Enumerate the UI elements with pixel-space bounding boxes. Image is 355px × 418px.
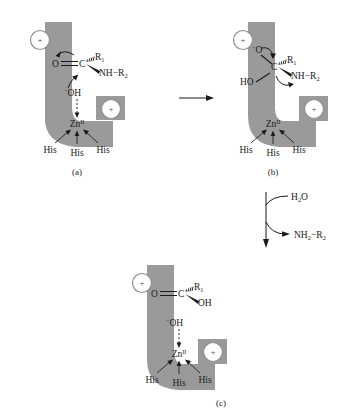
r1-group-b: R1 <box>287 55 297 66</box>
coordination-arrow-c <box>177 343 182 349</box>
hydroxyl-b: HO <box>240 77 254 87</box>
panel-label-c: (c) <box>216 398 226 408</box>
his-label-b3: His <box>292 145 306 155</box>
positive-charge-label-c2: + <box>211 348 216 357</box>
nh-r2-group-a: NH−R2 <box>99 68 128 79</box>
positive-charge-label-b1: + <box>241 36 246 45</box>
positive-charge-label-b2: + <box>312 105 317 114</box>
water-label: H2O <box>291 192 308 203</box>
coordination-arrow-a <box>75 113 80 119</box>
panel-label-a: (a) <box>72 167 82 177</box>
oh-group-c: OH <box>198 298 212 308</box>
positive-charge-label-c1: + <box>140 279 145 288</box>
his-label-a2: His <box>70 148 84 158</box>
his-label-a3: His <box>96 145 110 155</box>
central-carbon-b: C <box>271 62 277 72</box>
reaction-mechanism-figure: + + O C R1 NH−R2 −OH ZnII <box>0 0 355 418</box>
r1-group-a: R1 <box>95 52 105 63</box>
hydroxide-c: −OH <box>166 317 183 328</box>
carbonyl-carbon-c: C <box>178 289 184 299</box>
positive-charge-label-a2: + <box>109 105 114 114</box>
solid-wedge-b <box>278 67 292 77</box>
reaction-arrow-bc: H2O NH2−R2 <box>263 192 326 248</box>
his-label-a1: His <box>43 145 57 155</box>
positive-charge-label-a1: + <box>38 36 43 45</box>
his-label-c1: His <box>145 375 159 385</box>
carbonyl-carbon-a: C <box>79 59 85 69</box>
panel-c: + + O C R1 OH −OH ZnII His His His (c) <box>124 265 227 408</box>
nh-r2-group-b: NH−R2 <box>291 71 320 82</box>
water-in-curve <box>266 196 288 205</box>
amine-out-arrowhead <box>282 231 290 236</box>
r1-group-c: R1 <box>194 282 204 293</box>
reaction-arrow-ab <box>179 95 214 101</box>
hash-wedge-a <box>87 57 94 62</box>
hydroxide-a: −OH <box>64 87 81 98</box>
carbonyl-oxygen-c: O <box>151 289 158 299</box>
solid-wedge-a <box>86 64 100 74</box>
panel-a: + + O C R1 NH−R2 −OH ZnII <box>22 22 128 177</box>
electron-arrow-head-b2 <box>288 82 294 88</box>
zinc-label-c: ZnII <box>172 348 187 359</box>
panel-b: + + −O C HO R1 NH−R2 ZnII <box>225 22 328 177</box>
panel-label-b: (b) <box>268 167 279 177</box>
solid-wedge-c <box>185 294 199 304</box>
his-label-c3: His <box>198 375 212 385</box>
amine-label: NH2−R2 <box>294 230 326 241</box>
carbonyl-oxygen-a: O <box>52 59 59 69</box>
his-label-b2: His <box>266 148 280 158</box>
hash-wedge-b <box>279 60 286 65</box>
his-label-c2: His <box>172 378 186 388</box>
hash-wedge-c <box>186 287 193 292</box>
his-label-b1: His <box>239 145 253 155</box>
